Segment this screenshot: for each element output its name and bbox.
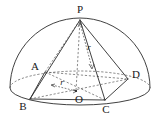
lateral-edge-pa	[45, 20, 80, 72]
label-vertex-b: B	[19, 100, 26, 112]
label-center-o: O	[75, 93, 83, 105]
radius-slant-arrow-bottom	[89, 64, 94, 69]
base-edge-bc	[30, 99, 105, 100]
label-radius-slant: r	[87, 42, 91, 52]
label-radius-horizontal: r	[60, 77, 64, 87]
label-vertex-d: D	[132, 68, 140, 80]
geometry-diagram: P A B C D O r r	[0, 0, 155, 119]
pyramid-axis-po	[76, 20, 80, 91]
radius-segment-horizontal	[52, 85, 76, 91]
geometry-figure: P A B C D O r r	[0, 0, 155, 119]
lateral-edge-pc	[80, 20, 105, 100]
center-point-marker	[75, 90, 77, 92]
hemisphere-dome-arc	[10, 18, 150, 88]
label-apex-p: P	[77, 3, 83, 15]
base-circle-back-arc	[10, 71, 150, 88]
label-vertex-c: C	[102, 103, 109, 115]
label-vertex-a: A	[31, 60, 39, 72]
base-edge-cd	[105, 79, 128, 100]
